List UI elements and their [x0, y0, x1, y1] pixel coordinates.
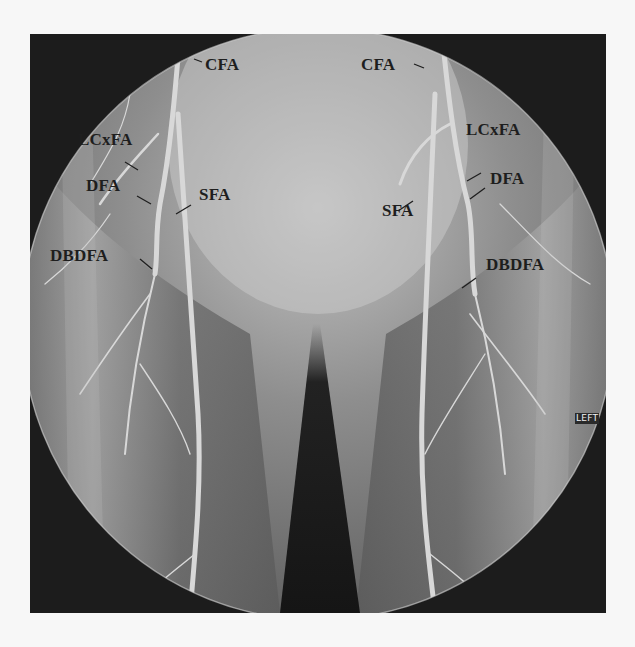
label-dfa-left-side: DFA	[490, 170, 524, 187]
label-dbdfa-left-side: DBDFA	[486, 256, 544, 273]
label-sfa-left-side: SFA	[382, 202, 413, 219]
label-lcxfa-left-side: LCxFA	[466, 121, 521, 138]
label-dbdfa-right-side: DBDFA	[50, 247, 108, 264]
label-lcxfa-right-side: LCxFA	[78, 131, 133, 148]
orientation-marker-left: LEFT	[575, 413, 599, 424]
label-sfa-right-side: SFA	[199, 186, 230, 203]
label-cfa-left-side: CFA	[361, 56, 395, 73]
label-dfa-right-side: DFA	[86, 177, 120, 194]
label-cfa-right-side: CFA	[205, 56, 239, 73]
